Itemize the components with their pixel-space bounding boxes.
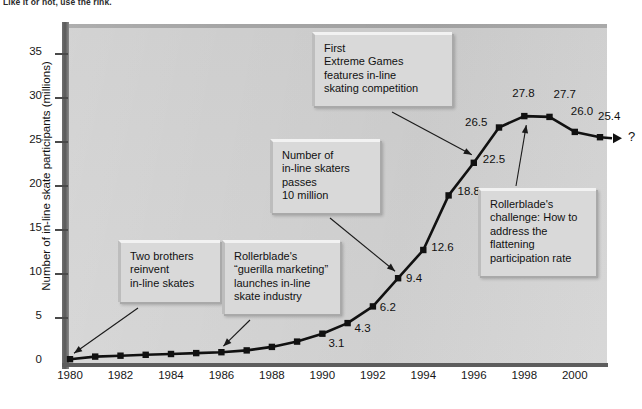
leader-arrow-head: [522, 125, 528, 133]
data-point-marker: [92, 353, 98, 359]
data-point-marker: [193, 350, 199, 356]
data-point-label: 26.0: [571, 105, 593, 117]
data-point-label: 18.8: [458, 185, 480, 197]
annotation-extreme-games: FirstExtreme Gamesfeatures in-lineskatin…: [312, 32, 452, 106]
leader-arrow-head: [463, 148, 472, 155]
chart-figure: Like it or not, use the rink. 5101520253…: [0, 0, 642, 409]
data-point-marker: [143, 352, 149, 358]
data-point-marker: [67, 356, 73, 362]
forecast-segment: [575, 132, 612, 138]
data-point-marker: [471, 160, 477, 166]
data-point-marker: [546, 114, 552, 120]
data-point-label: 12.6: [431, 241, 453, 253]
annotation-line: Extreme Games: [324, 55, 444, 68]
data-point-marker: [117, 353, 123, 359]
data-point-marker: [294, 338, 300, 344]
data-point-label: 27.8: [512, 87, 534, 99]
data-point-marker: [269, 344, 275, 350]
data-point-marker: [218, 349, 224, 355]
forecast-question-mark: ?: [628, 129, 635, 144]
annotation-line: participation rate: [490, 252, 588, 265]
annotation-line: 10 million: [282, 189, 372, 202]
leader-line: [74, 308, 138, 353]
annotation-line: flattening: [490, 238, 588, 251]
data-point-label: 25.4: [598, 110, 620, 122]
forecast-arrow: [575, 132, 622, 143]
data-point-label: 26.5: [465, 116, 487, 128]
data-point-marker: [370, 303, 376, 309]
annotation-two-brothers: Two brothersreinventin-line skates: [118, 240, 220, 302]
annotation-flattening-challenge: Rollerblade'schallenge: How toaddress th…: [478, 188, 596, 276]
data-point-marker: [244, 347, 250, 353]
leader-line: [392, 112, 472, 155]
annotation-line: reinvent: [130, 263, 212, 276]
data-point-marker: [319, 331, 325, 337]
annotation-line: Two brothers: [130, 250, 212, 263]
annotation-line: in-line skaters: [282, 162, 372, 175]
arrow-head: [613, 133, 622, 143]
annotation-line: passes: [282, 176, 372, 189]
annotation-line: “guerilla marketing”: [234, 263, 332, 276]
data-point-marker: [445, 192, 451, 198]
annotation-line: Rollerblade's: [234, 250, 332, 263]
annotation-line: skate industry: [234, 290, 332, 303]
data-point-label: 3.1: [328, 337, 344, 349]
leader-arrow-head: [74, 346, 82, 353]
leader-line: [516, 125, 526, 186]
data-point-label: 22.5: [483, 153, 505, 165]
annotation-line: features in-line: [324, 69, 444, 82]
data-point-marker: [496, 124, 502, 130]
data-point-marker: [597, 134, 603, 140]
annotation-line: Rollerblade's: [490, 198, 588, 211]
leader-arrow-head: [387, 264, 395, 272]
annotation-ten-million: Number ofin-line skaterspasses10 million: [270, 139, 380, 213]
annotation-guerilla-marketing: Rollerblade's“guerilla marketing”launche…: [222, 240, 340, 314]
data-point-marker: [168, 351, 174, 357]
annotation-line: Number of: [282, 149, 372, 162]
data-point-marker: [420, 247, 426, 253]
data-point-marker: [344, 320, 350, 326]
data-point-marker: [521, 113, 527, 119]
annotation-line: in-line skates: [130, 277, 212, 290]
data-point-marker: [395, 275, 401, 281]
annotation-line: skating competition: [324, 82, 444, 95]
data-point-label: 27.7: [554, 88, 576, 100]
data-point-label: 9.4: [406, 272, 422, 284]
annotation-line: First: [324, 42, 444, 55]
data-point-label: 4.3: [355, 322, 371, 334]
data-point-label: 6.2: [380, 301, 396, 313]
annotation-line: challenge: How to: [490, 211, 588, 224]
annotation-line: address the: [490, 225, 588, 238]
annotation-line: launches in-line: [234, 277, 332, 290]
